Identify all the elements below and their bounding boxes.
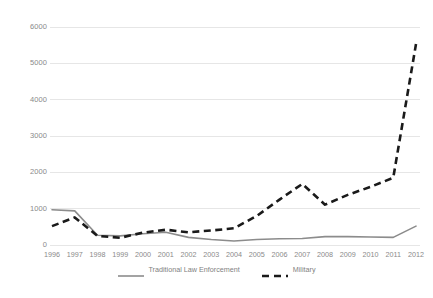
y-tick-label-0: 0	[43, 240, 47, 249]
chart-legend: Traditional Law EnforcementMilitary	[0, 265, 433, 274]
y-tick-label-5000: 5000	[30, 58, 47, 67]
line-chart: 0100020003000400050006000 19961997199819…	[0, 0, 433, 298]
series-lines	[52, 44, 416, 241]
y-tick-label-1000: 1000	[30, 204, 47, 213]
legend-label: Traditional Law Enforcement	[149, 265, 240, 274]
y-tick-label-2000: 2000	[30, 167, 47, 176]
x-tick-label-2012: 2012	[403, 250, 429, 259]
y-tick-label-4000: 4000	[30, 95, 47, 104]
legend-entry-traditional-law-enforcement[interactable]: Traditional Law Enforcement	[118, 265, 240, 274]
legend-entry-military[interactable]: Military	[262, 265, 316, 274]
legend-swatch-icon	[118, 266, 144, 274]
y-tick-label-3000: 3000	[30, 131, 47, 140]
gridlines	[50, 27, 420, 245]
y-tick-label-6000: 6000	[30, 22, 47, 31]
legend-swatch-icon	[262, 266, 288, 274]
legend-label: Military	[293, 265, 316, 274]
